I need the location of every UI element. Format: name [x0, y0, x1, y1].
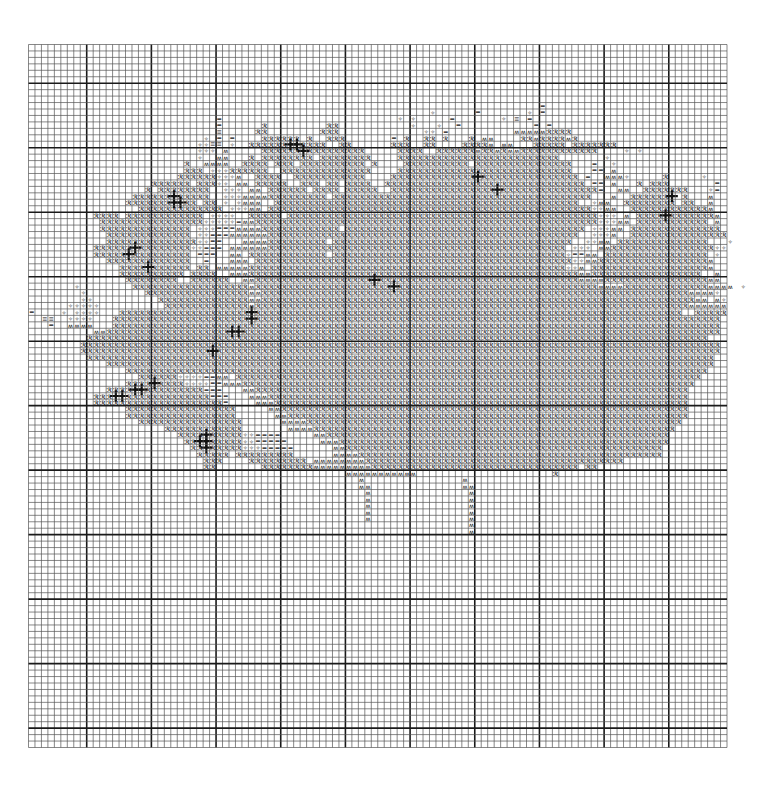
star-symbol: ✧: [217, 180, 222, 187]
stem-symbol: ʍ: [223, 264, 228, 271]
equal-symbol: =: [456, 121, 461, 129]
dark-petal-symbol: ℛ: [585, 193, 591, 200]
stem-symbol: ʍ: [708, 289, 713, 296]
stem-symbol: ʍ: [223, 380, 228, 387]
stem-symbol: ʍ: [611, 231, 616, 238]
dark-petal-symbol: ℛ: [624, 199, 630, 206]
dark-petal-symbol: ℛ: [339, 173, 345, 180]
dark-petal-symbol: ℛ: [191, 173, 197, 180]
stem-symbol: ʍ: [585, 257, 590, 264]
dark-petal-symbol: ℛ: [469, 154, 475, 161]
dark-petal-symbol: ℛ: [249, 457, 255, 464]
dark-petal-symbol: ℛ: [585, 218, 591, 225]
dark-petal-symbol: ℛ: [365, 154, 371, 161]
dark-petal-symbol: ℛ: [365, 167, 371, 174]
star-symbol: ✧: [715, 251, 720, 258]
dark-petal-symbol: ℛ: [107, 257, 113, 264]
dark-petal-symbol: ℛ: [139, 283, 145, 290]
star-symbol: ✧: [430, 109, 435, 116]
equal-symbol: =: [29, 308, 34, 316]
dark-petal-symbol: ℛ: [721, 309, 727, 316]
equal-symbol: =: [540, 108, 545, 116]
dark-petal-symbol: ℛ: [171, 425, 177, 432]
dark-petal-symbol: ℛ: [702, 264, 708, 271]
dark-petal-symbol: ℛ: [191, 444, 197, 451]
stem-symbol: ʍ: [243, 180, 248, 187]
dark-petal-symbol: ℛ: [255, 457, 261, 464]
equal-symbol: =: [449, 115, 454, 123]
stem-symbol: ʍ: [514, 128, 519, 135]
dark-petal-symbol: ℛ: [184, 264, 190, 271]
dark-petal-symbol: ℛ: [107, 360, 113, 367]
star-symbol: ✧: [74, 283, 79, 290]
stem-symbol: ʍ: [230, 380, 235, 387]
dark-petal-symbol: ℛ: [229, 367, 235, 374]
stem-symbol: ʍ: [288, 425, 293, 432]
dark-petal-symbol: ℛ: [242, 451, 248, 458]
star-symbol: ✧: [721, 244, 726, 251]
star-symbol: ✧: [411, 122, 416, 129]
stem-symbol: ʍ: [68, 322, 73, 329]
dark-petal-symbol: ℛ: [579, 193, 585, 200]
stem-symbol: ʍ: [217, 264, 222, 271]
dark-petal-symbol: ℛ: [294, 173, 300, 180]
dark-petal-symbol: ℛ: [94, 354, 100, 361]
dark-petal-symbol: ℛ: [178, 431, 184, 438]
stem-symbol: ʍ: [236, 231, 241, 238]
dark-petal-symbol: ℛ: [708, 244, 714, 251]
dark-petal-symbol: ℛ: [307, 180, 313, 187]
dark-petal-symbol: ℛ: [637, 180, 643, 187]
dark-petal-symbol: ℛ: [714, 328, 720, 335]
dark-petal-symbol: ℛ: [288, 167, 294, 174]
equal-symbol: =: [475, 108, 480, 116]
star-symbol: ✧: [191, 244, 196, 251]
star-symbol: ✧: [605, 154, 610, 161]
dark-petal-symbol: ℛ: [624, 451, 630, 458]
dark-petal-symbol: ℛ: [113, 360, 119, 367]
stem-symbol: ʍ: [75, 322, 80, 329]
dark-petal-symbol: ℛ: [152, 180, 158, 187]
stem-symbol: ʍ: [624, 218, 629, 225]
dark-petal-symbol: ℛ: [249, 251, 255, 258]
stem-symbol: ʍ: [721, 283, 726, 290]
stem-symbol: ʍ: [294, 425, 299, 432]
dark-petal-symbol: ℛ: [294, 154, 300, 161]
dark-petal-symbol: ℛ: [126, 199, 132, 206]
dark-petal-symbol: ℛ: [320, 173, 326, 180]
dark-petal-symbol: ℛ: [527, 135, 533, 142]
star-symbol: ✧: [624, 173, 629, 180]
star-symbol: ✧: [702, 173, 707, 180]
dark-petal-symbol: ℛ: [605, 457, 611, 464]
dark-petal-symbol: ℛ: [262, 180, 268, 187]
stem-symbol: ʍ: [243, 244, 248, 251]
dark-petal-symbol: ℛ: [281, 167, 287, 174]
dark-petal-symbol: ℛ: [676, 418, 682, 425]
dark-petal-symbol: ℛ: [320, 128, 326, 135]
stem-symbol: ʍ: [243, 386, 248, 393]
dark-petal-symbol: ℛ: [158, 296, 164, 303]
stem-symbol: ʍ: [611, 180, 616, 187]
dark-petal-symbol: ℛ: [242, 167, 248, 174]
stem-symbol: ʍ: [320, 438, 325, 445]
dark-petal-symbol: ℛ: [339, 218, 345, 225]
dark-petal-symbol: ℛ: [592, 186, 598, 193]
dark-petal-symbol: ℛ: [566, 238, 572, 245]
equal-symbol: =: [223, 231, 228, 239]
equal-symbol: =: [210, 250, 215, 258]
dark-petal-symbol: ℛ: [152, 289, 158, 296]
stem-symbol: ʍ: [307, 425, 312, 432]
dark-petal-symbol: ℛ: [326, 135, 332, 142]
shaded-equal-symbol: ≡: [514, 115, 519, 123]
dark-petal-symbol: ℛ: [139, 418, 145, 425]
stem-symbol: ʍ: [314, 431, 319, 438]
star-symbol: ✧: [728, 238, 733, 245]
star-symbol: ✧: [197, 154, 202, 161]
dark-petal-symbol: ℛ: [669, 425, 675, 432]
dark-petal-symbol: ℛ: [643, 451, 649, 458]
dark-petal-symbol: ℛ: [637, 451, 643, 458]
stem-symbol: ʍ: [230, 231, 235, 238]
dark-petal-symbol: ℛ: [152, 418, 158, 425]
dark-petal-symbol: ℛ: [714, 231, 720, 238]
stem-symbol: ʍ: [262, 193, 267, 200]
dark-petal-symbol: ℛ: [132, 367, 138, 374]
